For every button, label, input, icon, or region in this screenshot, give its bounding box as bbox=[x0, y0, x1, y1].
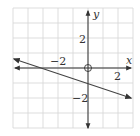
x-tick-label-pos: 2 bbox=[114, 70, 121, 83]
x-tick-label-neg: −2 bbox=[50, 55, 66, 68]
y-axis-label: y bbox=[92, 8, 100, 21]
y-tick-label-pos: 2 bbox=[79, 33, 86, 46]
x-axis-label: x bbox=[126, 54, 133, 67]
y-tick-label-neg: −2 bbox=[72, 92, 88, 105]
coordinate-graph: y x 2 −2 2 −2 bbox=[0, 0, 140, 136]
